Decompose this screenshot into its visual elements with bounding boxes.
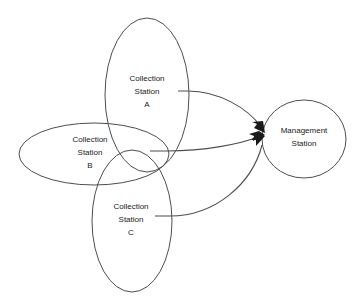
node-c-label-line2: Station [119, 215, 144, 224]
node-a-label-line2: Station [135, 87, 160, 96]
node-b-label-line3: B [87, 161, 92, 170]
node-management-label-line2: Station [292, 139, 317, 148]
node-c-label-line1: Collection [113, 202, 148, 211]
node-a-label-line3: A [144, 100, 150, 109]
edge-a-to-management[interactable] [178, 91, 265, 133]
node-management-label-line1: Management [281, 126, 328, 135]
network-topology-diagram: Collection Station A Collection Station … [0, 0, 364, 304]
node-a-label-line1: Collection [129, 74, 164, 83]
diagram-canvas: Collection Station A Collection Station … [0, 0, 364, 304]
node-collection-station-c[interactable]: Collection Station C [92, 150, 172, 292]
node-b-label-line1: Collection [72, 135, 107, 144]
node-management-station[interactable]: Management Station [262, 100, 346, 178]
node-b-label-line2: Station [78, 148, 103, 157]
edge-a-curve [178, 91, 261, 127]
node-c-label-line3: C [128, 228, 134, 237]
